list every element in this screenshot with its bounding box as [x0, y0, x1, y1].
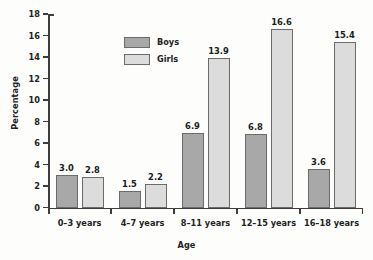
- y-axis-tick-label: 6: [34, 138, 40, 148]
- y-axis-tick-label: 4: [34, 160, 40, 170]
- x-axis-tick: [236, 208, 238, 214]
- y-axis-tick-label: 12: [29, 74, 40, 84]
- x-axis-tick: [48, 208, 50, 214]
- y-axis-tick-label: 14: [29, 52, 40, 62]
- y-axis-tick: [43, 121, 48, 123]
- y-axis-tick-label: 18: [29, 9, 40, 19]
- x-axis-tick: [173, 208, 175, 214]
- y-axis-tick: [43, 185, 48, 187]
- x-axis-category-label: 8–11 years: [181, 218, 230, 228]
- y-axis-tick-label: 10: [29, 95, 40, 105]
- bar-value-label: 3.6: [311, 157, 326, 167]
- x-axis-title: Age: [0, 240, 373, 250]
- y-axis-tick: [43, 35, 48, 37]
- bar-value-label: 16.6: [271, 17, 292, 27]
- y-axis-tick-label: 8: [34, 117, 40, 127]
- plot-area: 024681012141618 3.02.81.52.26.913.96.816…: [48, 14, 363, 209]
- bar-boys-2[interactable]: [182, 133, 204, 207]
- bar-chart: Percentage 024681012141618 3.02.81.52.26…: [0, 0, 373, 260]
- bar-value-label: 6.8: [248, 122, 263, 132]
- bar-value-label: 2.8: [85, 165, 100, 175]
- x-axis-category-label: 12–15 years: [241, 218, 296, 228]
- bar-boys-3[interactable]: [245, 134, 267, 207]
- legend-label-girls: Girls: [157, 54, 178, 64]
- y-axis-tick: [43, 99, 48, 101]
- y-axis-tick-label: 0: [34, 203, 40, 213]
- y-axis-top-cap: [48, 14, 54, 16]
- y-axis-tick: [43, 56, 48, 58]
- bar-girls-3[interactable]: [271, 29, 293, 207]
- bar-value-label: 6.9: [185, 121, 200, 131]
- y-axis-tick-label: 16: [29, 31, 40, 41]
- legend-label-boys: Boys: [157, 37, 179, 47]
- x-axis-category-label: 0–3 years: [58, 218, 102, 228]
- y-axis-tick: [43, 142, 48, 144]
- legend-swatch-boys-icon: [124, 37, 150, 48]
- bar-girls-1[interactable]: [145, 184, 167, 208]
- y-axis-tick: [43, 78, 48, 80]
- y-axis-title-text: Percentage: [10, 76, 20, 130]
- bar-value-label: 3.0: [59, 163, 74, 173]
- bar-value-label: 1.5: [122, 179, 137, 189]
- y-axis-tick: [43, 164, 48, 166]
- bar-value-label: 2.2: [148, 172, 163, 182]
- bar-boys-4[interactable]: [308, 169, 330, 208]
- bar-girls-4[interactable]: [334, 42, 356, 208]
- x-axis-category-label: 4–7 years: [121, 218, 165, 228]
- bar-value-label: 13.9: [208, 46, 229, 56]
- y-axis-tick: [43, 13, 48, 15]
- bar-value-label: 15.4: [334, 30, 355, 40]
- bar-boys-1[interactable]: [119, 191, 141, 207]
- x-axis-tick: [299, 208, 301, 214]
- y-axis-line: [48, 14, 50, 209]
- x-axis-line: [48, 208, 363, 210]
- x-axis-category-label: 16–18 years: [304, 218, 359, 228]
- x-axis-tick: [110, 208, 112, 214]
- x-axis-tick: [362, 208, 364, 214]
- legend: Boys Girls: [124, 35, 179, 69]
- bar-girls-0[interactable]: [82, 177, 104, 207]
- bar-boys-0[interactable]: [56, 175, 78, 207]
- y-axis-title: Percentage: [8, 0, 22, 205]
- legend-item-girls[interactable]: Girls: [124, 52, 179, 66]
- legend-swatch-girls-icon: [124, 54, 150, 65]
- legend-item-boys[interactable]: Boys: [124, 35, 179, 49]
- bar-girls-2[interactable]: [208, 58, 230, 207]
- y-axis-tick-label: 2: [34, 181, 40, 191]
